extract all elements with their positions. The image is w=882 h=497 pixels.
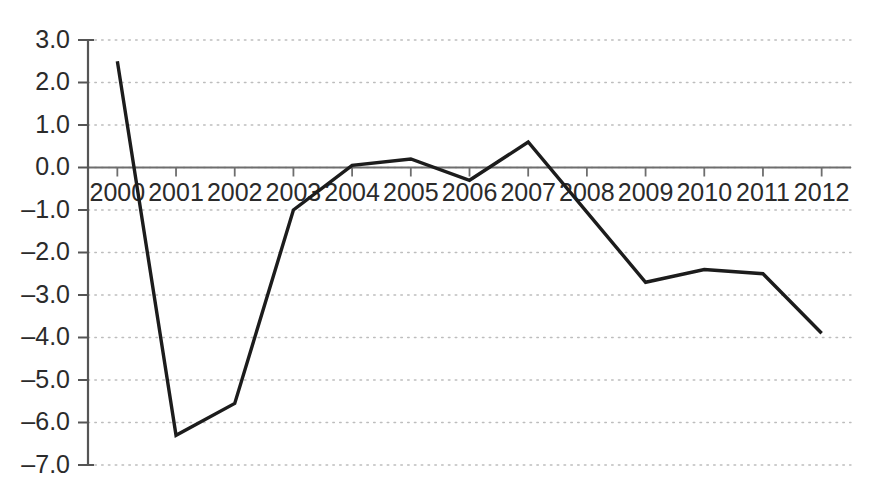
y-axis-tick-label: 3.0 bbox=[35, 25, 70, 53]
y-axis-tick-label: 1.0 bbox=[35, 110, 70, 138]
x-axis-tick-label: 2003 bbox=[266, 178, 322, 206]
gridlines bbox=[88, 40, 851, 465]
line-chart: 3.02.01.00.0–1.0–2.0–3.0–4.0–5.0–6.0–7.0… bbox=[0, 0, 882, 497]
y-axis-spine bbox=[88, 40, 94, 465]
x-axis-tick-label: 2008 bbox=[559, 178, 615, 206]
x-axis-ticks bbox=[117, 168, 821, 177]
x-axis-tick-label: 2005 bbox=[383, 178, 439, 206]
y-axis-tick-label: –5.0 bbox=[21, 365, 70, 393]
data-line-series-1 bbox=[117, 61, 821, 435]
data-series-group bbox=[117, 61, 821, 435]
x-axis-tick-label: 2001 bbox=[148, 178, 204, 206]
x-axis-tick-label: 2011 bbox=[736, 178, 790, 206]
y-axis bbox=[88, 40, 94, 465]
x-axis-tick-label: 2009 bbox=[618, 178, 674, 206]
x-axis-tick-label: 2002 bbox=[207, 178, 263, 206]
y-axis-tick-label: –1.0 bbox=[21, 195, 70, 223]
y-axis-tick-label: –4.0 bbox=[21, 322, 70, 350]
y-axis-tick-label: 0.0 bbox=[35, 152, 70, 180]
x-axis-tick-label: 2007 bbox=[500, 178, 556, 206]
y-axis-tick-label: –6.0 bbox=[21, 407, 70, 435]
y-axis-tick-label: –2.0 bbox=[21, 237, 70, 265]
chart-canvas: 3.02.01.00.0–1.0–2.0–3.0–4.0–5.0–6.0–7.0… bbox=[0, 0, 882, 497]
x-axis-tick-label: 2006 bbox=[442, 178, 498, 206]
y-axis-tick-label: 2.0 bbox=[35, 67, 70, 95]
x-axis-tick-label: 2012 bbox=[794, 178, 850, 206]
x-axis-tick-labels: 2000200120022003200420052006200720082009… bbox=[90, 178, 850, 206]
x-axis-tick-label: 2010 bbox=[676, 178, 732, 206]
y-axis-tick-labels: 3.02.01.00.0–1.0–2.0–3.0–4.0–5.0–6.0–7.0 bbox=[21, 25, 70, 478]
y-axis-tick-label: –7.0 bbox=[21, 450, 70, 478]
y-axis-ticks bbox=[78, 40, 88, 465]
x-axis-tick-label: 2004 bbox=[324, 178, 380, 206]
y-axis-tick-label: –3.0 bbox=[21, 280, 70, 308]
